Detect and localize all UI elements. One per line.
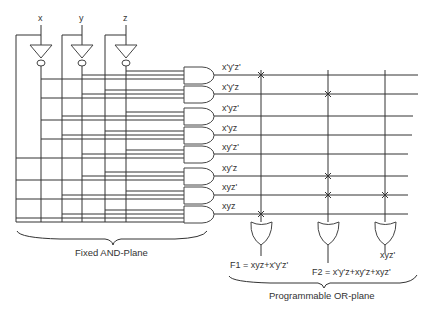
and-gate-icon xyxy=(184,127,214,144)
inverter-x-icon xyxy=(30,45,52,58)
term-label: xyz xyxy=(222,201,236,211)
inverter-y-icon xyxy=(71,45,93,58)
input-z-lines xyxy=(105,25,137,222)
or-gate-icon xyxy=(318,222,339,245)
and-gate-icon xyxy=(184,86,214,103)
output-f3-label: xyz' xyxy=(380,250,396,260)
term-label: xyz' xyxy=(222,182,238,192)
term-label: x'yz' xyxy=(222,103,239,113)
and-gate-icon xyxy=(184,146,214,163)
and-gate-icon xyxy=(184,206,214,223)
and-gate-icon xyxy=(184,187,214,204)
term-label: x'y'z xyxy=(222,82,239,92)
input-x-lines xyxy=(16,25,52,222)
and-gate-icon xyxy=(184,67,214,84)
and-gates xyxy=(184,67,214,223)
or-gate-icon xyxy=(375,222,396,245)
and-plane-caption: Fixed AND-Plane xyxy=(75,247,148,258)
input-label-x: x xyxy=(38,13,43,23)
or-plane-caption: Programmable OR-plane xyxy=(269,290,375,301)
term-label: x'yz xyxy=(222,123,238,133)
input-label-y: y xyxy=(79,13,84,23)
pla-diagram: x y z xyxy=(0,0,433,314)
term-label: xy'z' xyxy=(222,142,239,152)
and-gate-icon xyxy=(184,168,214,185)
and-plane-brace xyxy=(17,231,207,245)
or-plane-lines xyxy=(261,70,385,222)
output-f2-label: F2 = x'y'z+xy'z+xyz' xyxy=(312,267,391,277)
or-gates xyxy=(251,222,396,263)
output-f1-label: F1 = xyz+x'y'z' xyxy=(230,260,288,270)
input-label-z: z xyxy=(123,13,128,23)
or-gate-icon xyxy=(251,222,272,245)
and-gate-icon xyxy=(184,108,214,125)
term-label: xy'z xyxy=(222,163,238,173)
input-y-lines xyxy=(62,25,93,222)
inverter-z-icon xyxy=(115,45,137,58)
term-label: x'y'z' xyxy=(222,62,241,72)
